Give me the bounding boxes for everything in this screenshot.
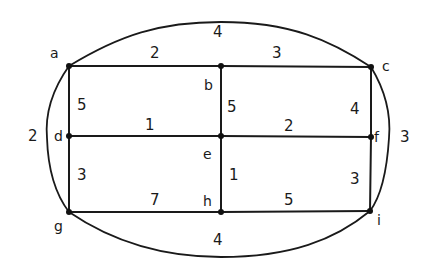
- edge-e-f: [221, 136, 371, 137]
- node-label-f: f: [374, 129, 380, 145]
- outer-arcs: [47, 22, 390, 257]
- edge-weight-e-h: 1: [229, 166, 239, 184]
- node-label-c: c: [382, 58, 390, 74]
- edge-weight-d-g: 3: [77, 166, 87, 184]
- arc-weight-g-i: 4: [213, 231, 223, 249]
- arc-weight-c-i: 3: [400, 128, 410, 146]
- edge-weight-a-d: 5: [77, 96, 87, 114]
- node-label-b: b: [204, 77, 213, 93]
- grid-edges: [69, 66, 371, 212]
- edge-weight-h-i: 5: [284, 191, 294, 209]
- node-a: [66, 63, 72, 69]
- edge-weight-b-c: 3: [272, 44, 282, 62]
- edge-b-c: [221, 66, 371, 67]
- graph-diagram: 4234235541231375abcdefghi: [0, 0, 431, 272]
- edge-weight-f-i: 3: [350, 170, 360, 188]
- node-c: [368, 64, 374, 70]
- edge-f-i: [370, 137, 371, 211]
- edge-weight-d-e: 1: [145, 116, 155, 134]
- node-i: [367, 208, 373, 214]
- node-label-h: h: [203, 193, 212, 209]
- node-d: [66, 133, 72, 139]
- node-g: [66, 209, 72, 215]
- edge-h-i: [221, 211, 370, 212]
- node-label-e: e: [203, 146, 212, 162]
- edge-weight-b-e: 5: [227, 98, 237, 116]
- edge-weight-c-f: 4: [350, 100, 360, 118]
- node-label-a: a: [50, 45, 59, 61]
- arc-weight-a-c: 4: [213, 23, 223, 41]
- node-label-g: g: [54, 218, 63, 234]
- arc-weight-a-g: 2: [28, 127, 38, 145]
- node-label-i: i: [377, 212, 381, 228]
- edge-weight-a-b: 2: [150, 44, 160, 62]
- node-label-d: d: [54, 128, 63, 144]
- node-e: [218, 133, 224, 139]
- edge-weight-e-f: 2: [284, 117, 294, 135]
- edge-weight-g-h: 7: [150, 191, 160, 209]
- node-h: [218, 209, 224, 215]
- node-b: [218, 63, 224, 69]
